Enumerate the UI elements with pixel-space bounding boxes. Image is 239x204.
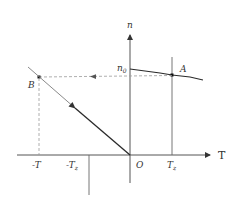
origin-label: O	[136, 160, 144, 170]
diagram-canvas: T n n0 A B -T -Tz O Tz	[0, 0, 239, 204]
tick-label-neg-t: -T	[32, 160, 42, 170]
characteristic-curve	[130, 69, 203, 80]
point-b-label: B	[27, 80, 35, 90]
diagonal-line-upper	[28, 67, 75, 108]
n0-label: n0	[117, 63, 127, 74]
tick-label-neg-tz: -Tz	[66, 160, 79, 171]
arrow-left-icon	[90, 74, 96, 79]
t-axis-label: T	[218, 149, 226, 162]
point-a	[171, 74, 174, 77]
n-axis-label: n	[127, 20, 133, 30]
point-a-label: A	[179, 64, 187, 74]
dashed-line-a-to-b	[39, 76, 172, 78]
tick-label-tz: Tz	[167, 160, 177, 171]
diagonal-line-lower	[75, 108, 130, 155]
